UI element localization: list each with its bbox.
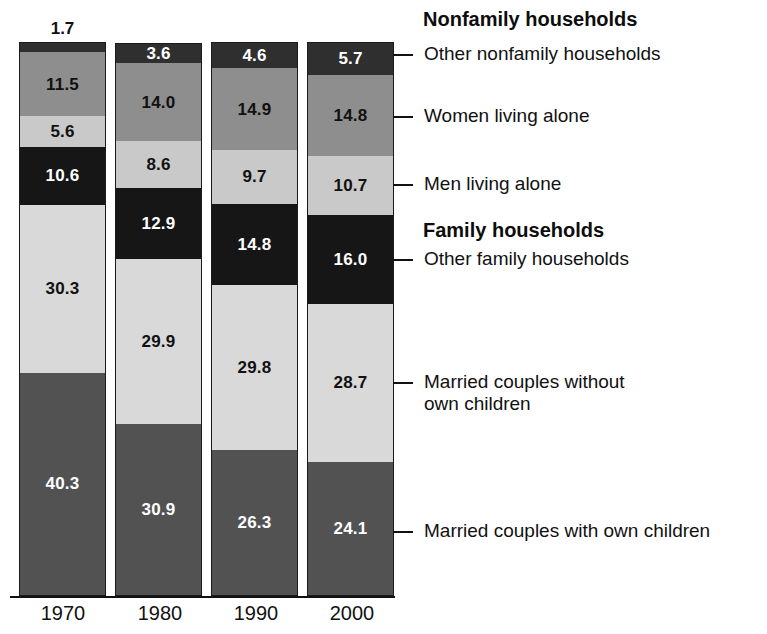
legend-item-other-family: Other family households: [424, 248, 629, 270]
leader-line-married-with: [393, 531, 413, 533]
value-label-2000-4: 28.7: [334, 374, 368, 391]
segment-1980-2: 8.6: [116, 141, 201, 189]
value-label-1980-1: 14.0: [142, 94, 176, 111]
segment-2000-0: 5.7: [308, 43, 393, 75]
segment-2000-4: 28.7: [308, 304, 393, 462]
leader-line-other-family: [393, 259, 413, 261]
value-label-1970-3: 10.6: [46, 167, 80, 184]
bar-1970: 1.711.55.610.630.340.3: [19, 42, 106, 596]
value-label-1990-1: 14.9: [238, 101, 272, 118]
leader-line-women-alone: [393, 116, 413, 118]
bar-1990: 4.614.99.714.829.826.3: [211, 42, 298, 596]
segment-1970-5: 40.3: [20, 373, 105, 596]
x-tick-label-1980: 1980: [125, 602, 195, 625]
segment-1970-2: 5.6: [20, 116, 105, 147]
value-label-1970-2: 5.6: [50, 123, 74, 140]
bar-2000: 5.714.810.716.028.724.1: [307, 42, 394, 596]
segment-1990-1: 14.9: [212, 68, 297, 150]
stacked-bar-chart: 1.711.55.610.630.340.33.614.08.612.929.9…: [0, 0, 767, 634]
segment-1980-0: 3.6: [116, 44, 201, 64]
legend-item-married-with: Married couples with own children: [424, 520, 710, 542]
value-label-2000-5: 24.1: [334, 520, 368, 537]
segment-1970-4: 30.3: [20, 205, 105, 372]
legend-item-women-alone: Women living alone: [424, 105, 589, 127]
x-tick-label-2000: 2000: [317, 602, 387, 625]
bars-area: 1.711.55.610.630.340.33.614.08.612.929.9…: [19, 44, 394, 596]
segment-1980-3: 12.9: [116, 188, 201, 259]
value-label-2000-3: 16.0: [334, 251, 368, 268]
x-axis-line: [10, 596, 395, 598]
value-label-1980-0: 3.6: [146, 45, 170, 62]
legend-item-men-alone: Men living alone: [424, 173, 561, 195]
segment-1980-1: 14.0: [116, 63, 201, 140]
bar-1980: 3.614.08.612.929.930.9: [115, 43, 202, 596]
x-tick-label-1990: 1990: [221, 602, 291, 625]
value-label-2000-2: 10.7: [334, 177, 368, 194]
value-label-1990-0: 4.6: [242, 47, 266, 64]
legend-header-nonfamily: Nonfamily households: [423, 8, 637, 31]
value-label-1980-4: 29.9: [142, 333, 176, 350]
segment-1980-4: 29.9: [116, 259, 201, 424]
leader-line-married-without: [393, 382, 413, 384]
value-label-1970-5: 40.3: [46, 475, 80, 492]
segment-1970-0: [20, 43, 105, 52]
x-tick-label-1970: 1970: [28, 602, 98, 625]
value-label-1980-5: 30.9: [142, 501, 176, 518]
segment-1980-5: 30.9: [116, 424, 201, 595]
value-label-1990-2: 9.7: [242, 168, 266, 185]
value-label-outside-1970-0: 1.7: [20, 19, 105, 39]
segment-2000-5: 24.1: [308, 462, 393, 595]
value-label-1970-1: 11.5: [46, 76, 79, 93]
legend-header-family: Family households: [423, 219, 604, 242]
leader-line-men-alone: [393, 184, 413, 186]
legend-item-other-nonfamily: Other nonfamily households: [424, 43, 661, 65]
segment-1970-1: 11.5: [20, 52, 105, 116]
value-label-1990-4: 29.8: [238, 359, 272, 376]
segment-1990-2: 9.7: [212, 150, 297, 204]
segment-2000-2: 10.7: [308, 156, 393, 215]
legend-item-married-without: Married couples without own children: [424, 371, 664, 415]
segment-2000-3: 16.0: [308, 215, 393, 303]
value-label-1990-3: 14.8: [238, 236, 272, 253]
value-label-1990-5: 26.3: [238, 514, 272, 531]
value-label-1970-4: 30.3: [46, 280, 80, 297]
segment-1990-5: 26.3: [212, 450, 297, 595]
value-label-1980-2: 8.6: [146, 156, 170, 173]
segment-1990-3: 14.8: [212, 204, 297, 286]
value-label-1980-3: 12.9: [142, 215, 176, 232]
segment-2000-1: 14.8: [308, 75, 393, 157]
segment-1990-4: 29.8: [212, 285, 297, 450]
segment-1990-0: 4.6: [212, 43, 297, 68]
leader-line-other-nonfamily: [393, 54, 413, 56]
value-label-2000-0: 5.7: [338, 50, 362, 67]
segment-1970-3: 10.6: [20, 147, 105, 206]
value-label-2000-1: 14.8: [334, 107, 368, 124]
